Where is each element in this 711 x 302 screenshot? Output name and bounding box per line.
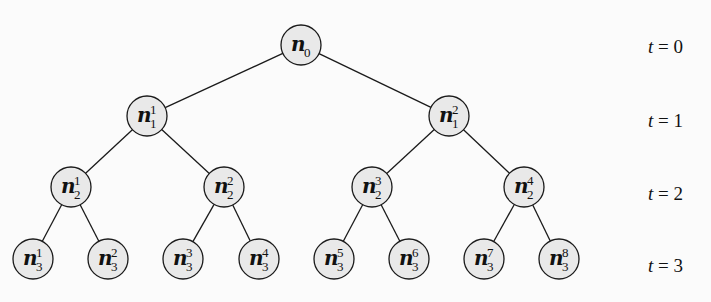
tree-node-n3-8: n83 <box>539 239 579 279</box>
tree-edge <box>533 205 551 241</box>
tree-node-n3-5: n53 <box>314 239 354 279</box>
node-subscript: 3 <box>262 259 269 274</box>
node-subscript: 2 <box>375 187 382 202</box>
node-subscript: 2 <box>74 187 81 202</box>
tree-node-n2-1: n12 <box>51 167 91 207</box>
tree-node-n2-3: n32 <box>352 167 392 207</box>
node-superscript: 4 <box>262 245 269 260</box>
node-superscript: 4 <box>527 173 534 188</box>
node-superscript: 1 <box>74 173 81 188</box>
scenario-tree-diagram: n0n11n21n12n22n32n42n13n23n33n43n53n63n7… <box>0 0 711 302</box>
node-superscript: 3 <box>375 173 382 188</box>
tree-node-n3-1: n13 <box>13 239 53 279</box>
node-subscript: 2 <box>527 187 534 202</box>
tree-edge <box>162 130 210 174</box>
tree-edge <box>387 130 435 174</box>
tree-edge <box>319 54 431 108</box>
node-subscript: 3 <box>337 259 344 274</box>
tree-node-n3-4: n43 <box>239 239 279 279</box>
tree-edges <box>42 53 550 241</box>
tree-node-n1-1: n11 <box>127 96 167 136</box>
node-superscript: 2 <box>227 173 234 188</box>
node-subscript: 3 <box>487 259 494 274</box>
time-label-t0: t = 0 <box>648 36 683 57</box>
tree-edge <box>86 130 133 174</box>
node-subscript: 2 <box>227 187 234 202</box>
tree-edge <box>42 205 61 242</box>
node-superscript: 5 <box>337 245 344 260</box>
node-subscript: 3 <box>562 259 569 274</box>
tree-node-n3-7: n73 <box>464 239 504 279</box>
node-superscript: 2 <box>452 102 459 117</box>
time-step-labels: t = 0t = 1t = 2t = 3 <box>648 36 683 276</box>
tree-edge <box>165 53 283 107</box>
tree-edge <box>233 205 251 241</box>
node-subscript: 3 <box>36 259 43 274</box>
node-superscript: 7 <box>487 245 494 260</box>
tree-node-n2-2: n22 <box>204 167 244 207</box>
node-superscript: 2 <box>111 245 118 260</box>
tree-edge <box>494 204 515 241</box>
node-subscript: 3 <box>111 259 118 274</box>
time-label-t2: t = 2 <box>648 183 683 204</box>
node-superscript: 6 <box>412 245 419 260</box>
tree-edge <box>343 205 362 242</box>
node-subscript: 3 <box>186 259 193 274</box>
tree-node-n2-4: n42 <box>504 167 544 207</box>
tree-node-n3-6: n63 <box>389 239 429 279</box>
tree-node-n3-2: n23 <box>88 239 128 279</box>
node-subscript: 3 <box>412 259 419 274</box>
tree-edge <box>193 204 214 241</box>
node-superscript: 1 <box>150 102 157 117</box>
node-subscript: 1 <box>150 116 157 131</box>
time-label-t1: t = 1 <box>648 110 683 131</box>
node-superscript: 1 <box>36 245 43 260</box>
tree-edge <box>464 130 510 174</box>
node-subscript: 1 <box>452 116 459 131</box>
tree-edge <box>80 205 99 241</box>
tree-node-n0: n0 <box>281 25 321 65</box>
tree-edge <box>381 205 400 241</box>
node-superscript: 8 <box>562 245 569 260</box>
time-label-t3: t = 3 <box>648 255 683 276</box>
node-subscript: 0 <box>304 45 311 60</box>
tree-node-n1-2: n21 <box>429 96 469 136</box>
tree-node-n3-3: n33 <box>163 239 203 279</box>
node-superscript: 3 <box>186 245 193 260</box>
